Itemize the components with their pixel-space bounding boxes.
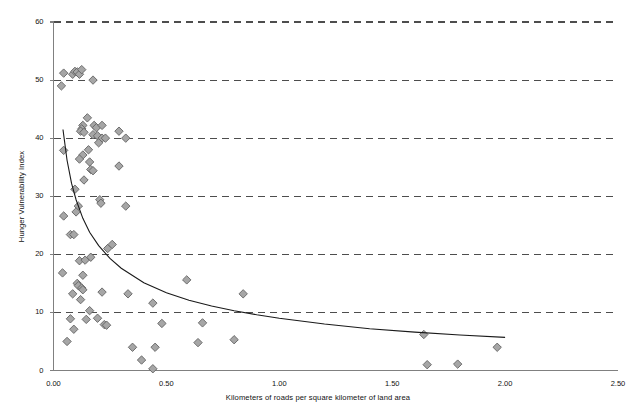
data-point: [124, 290, 132, 298]
data-point: [76, 295, 84, 303]
trend-curve: [63, 129, 505, 337]
data-point: [84, 146, 92, 154]
data-point: [70, 325, 78, 333]
x-axis-title: Kilometers of roads per square kilometer…: [0, 393, 636, 402]
data-point: [158, 319, 166, 327]
x-tick-label-2.50: 2.50: [598, 379, 636, 388]
data-point: [115, 127, 123, 135]
data-point: [239, 290, 247, 298]
x-tick-label-2.00: 2.00: [485, 379, 525, 388]
data-point: [423, 360, 431, 368]
data-point: [57, 82, 65, 90]
x-tick-label-1.50: 1.50: [372, 379, 412, 388]
data-point: [493, 343, 501, 351]
scatter-chart: 01020304050600.000.501.001.502.002.50 Ki…: [0, 0, 636, 410]
data-point: [59, 212, 67, 220]
data-point: [68, 290, 76, 298]
data-point: [58, 269, 66, 277]
data-point: [82, 315, 90, 323]
data-point: [85, 306, 93, 314]
y-tick-label-0: 0: [16, 366, 44, 375]
data-point: [85, 158, 93, 166]
y-tick-label-60: 60: [16, 17, 44, 26]
data-points: [57, 65, 501, 373]
x-tick-label-0.50: 0.50: [146, 379, 186, 388]
gridlines: [54, 22, 617, 312]
data-point: [198, 319, 206, 327]
data-point: [63, 337, 71, 345]
data-point: [149, 299, 157, 307]
data-point: [230, 336, 238, 344]
data-point: [453, 360, 461, 368]
data-point: [137, 356, 145, 364]
data-point: [122, 134, 130, 142]
data-point: [79, 271, 87, 279]
x-tick-label-1.00: 1.00: [259, 379, 299, 388]
data-point: [194, 338, 202, 346]
data-point: [93, 314, 101, 322]
y-tick-label-10: 10: [16, 307, 44, 316]
data-point: [80, 176, 88, 184]
data-point: [98, 288, 106, 296]
data-point: [89, 76, 97, 84]
data-point: [66, 315, 74, 323]
data-point: [59, 69, 67, 77]
x-tick-label-0.00: 0.00: [34, 379, 74, 388]
data-point: [149, 365, 157, 373]
data-point: [128, 343, 136, 351]
plot-area: [0, 0, 636, 410]
trend-line: [63, 129, 505, 337]
data-point: [183, 276, 191, 284]
data-point: [115, 162, 123, 170]
data-point: [122, 202, 130, 210]
data-point: [151, 343, 159, 351]
data-point: [420, 330, 428, 338]
y-axis-title: Hunger Vulnerability Index: [17, 107, 26, 287]
data-point: [83, 114, 91, 122]
y-tick-label-50: 50: [16, 75, 44, 84]
